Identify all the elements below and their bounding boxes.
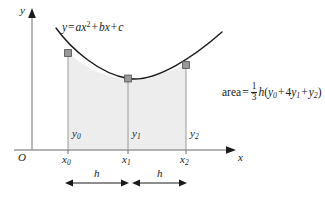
curve-point-marker-x1 <box>125 75 132 82</box>
h-arrowhead-left-end <box>121 180 129 187</box>
curve-eq-plus2: + <box>110 21 119 33</box>
curve-eq-c: c <box>118 21 123 33</box>
fraction-denominator: 3 <box>251 93 258 103</box>
x-tick-label-x0-sub: 0 <box>67 158 71 167</box>
simpson-rule-figure: y x O y=ax2+bx+c area=13h(y0+4y1+y2) y0 … <box>0 0 325 197</box>
y-axis-arrowhead <box>28 8 36 18</box>
origin-label: O <box>18 152 26 163</box>
area-formula-equals: = <box>241 86 250 98</box>
area-formula-close-paren: ) <box>318 86 322 98</box>
y-axis-label: y <box>20 5 25 16</box>
x-axis-label: x <box>238 152 243 163</box>
ordinate-label-y0-sub: 0 <box>77 132 81 141</box>
ordinate-label-y1: y1 <box>132 128 141 141</box>
x-tick-label-x0: x0 <box>62 154 71 167</box>
ordinate-label-y0: y0 <box>72 128 81 141</box>
x-tick-label-x1: x1 <box>122 154 131 167</box>
area-formula-label: area=13h(y0+4y1+y2) <box>222 82 322 102</box>
x-axis-arrowhead <box>226 146 236 154</box>
h-label-right: h <box>157 168 163 179</box>
h-arrowhead-right-start <box>132 180 140 187</box>
ordinate-label-y2: y2 <box>190 128 199 141</box>
area-formula-word: area <box>222 86 241 98</box>
area-formula-plus2: + <box>300 86 309 98</box>
ordinate-label-y2-sub: 2 <box>195 132 199 141</box>
shaded-area-region <box>68 53 186 150</box>
x-tick-label-x2: x2 <box>180 154 189 167</box>
curve-eq-equals: = <box>67 21 76 33</box>
x-tick-label-x1-sub: 1 <box>127 158 131 167</box>
curve-eq-x2: x <box>105 21 110 33</box>
x-tick-label-x2-sub: 2 <box>185 158 189 167</box>
area-formula-fraction: 13 <box>251 82 258 102</box>
curve-eq-plus1: + <box>90 21 99 33</box>
ordinate-label-y1-sub: 1 <box>137 132 141 141</box>
h-arrowhead-right-end <box>179 180 187 187</box>
curve-equation-label: y=ax2+bx+c <box>62 21 123 33</box>
h-label-left: h <box>94 168 100 179</box>
h-arrowhead-left-start <box>65 180 73 187</box>
curve-point-marker-x0 <box>65 50 72 57</box>
curve-point-marker-x2 <box>183 62 190 69</box>
